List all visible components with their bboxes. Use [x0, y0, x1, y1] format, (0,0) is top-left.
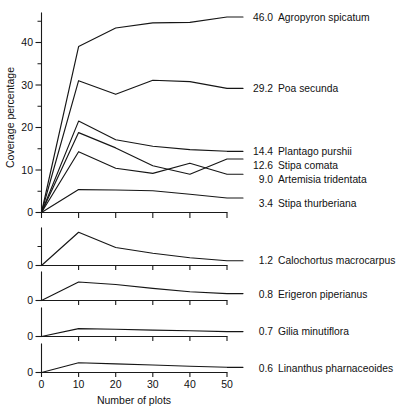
xtick-0: 0: [39, 378, 45, 390]
legend-value-gilia-minutiflora: 0.7: [247, 326, 273, 337]
legend-name-gilia-minutiflora: Gilia minutiflora: [278, 326, 349, 337]
calochortus-ytick-label-0: 0: [27, 259, 33, 271]
xtick-30: 30: [147, 378, 159, 390]
legend-name-poa-secunda: Poa secunda: [278, 83, 338, 94]
series-plantago-purshii: [42, 121, 244, 212]
main-panel: 0 10 20 30 40 Coverage percentage: [4, 13, 243, 218]
legend-item-stipa-comata: 12.6Stipa comata: [247, 160, 338, 171]
main-x-ticks: [42, 213, 228, 219]
species-coverage-figure: 0 10 20 30 40 Coverage percentage: [0, 0, 398, 410]
calochortus-x-ticks: [79, 266, 227, 271]
legend-value-linanthus-pharnaceoides: 0.6: [247, 363, 273, 374]
xtick-10: 10: [73, 378, 85, 390]
series-gilia-minutiflora: [42, 329, 244, 337]
legend-name-plantago-purshii: Plantago purshii: [278, 146, 352, 157]
x-axis-title: Number of plots: [97, 394, 171, 406]
legend-item-plantago-purshii: 14.4Plantago purshii: [247, 146, 352, 157]
linanthus-ytick-label-0: 0: [27, 366, 33, 378]
series-agropyron-spicatum: [42, 17, 244, 213]
linanthus-panel: 0 0 10 20 30 40 50 Number of plots: [27, 344, 243, 406]
legend-item-poa-secunda: 29.2Poa secunda: [247, 83, 338, 94]
xtick-20: 20: [110, 378, 122, 390]
legend-value-poa-secunda: 29.2: [247, 83, 273, 94]
legend-name-artemisia-tridentata: Artemisia tridentata: [278, 174, 367, 185]
legend-item-erigeron-piperianus: 0.8Erigeron piperianus: [247, 289, 367, 300]
legend-name-calochortus-macrocarpus: Calochortus macrocarpus: [278, 255, 395, 266]
legend-value-stipa-comata: 12.6: [247, 160, 273, 171]
main-ytick-30: 30: [21, 79, 33, 91]
legend-name-agropyron-spicatum: Agropyron spicatum: [278, 12, 370, 23]
main-y-minor-ticks: [38, 21, 42, 191]
erigeron-panel: 0: [27, 272, 243, 306]
legend-item-gilia-minutiflora: 0.7Gilia minutiflora: [247, 326, 349, 337]
main-y-major-ticks: [36, 43, 42, 213]
legend-value-agropyron-spicatum: 46.0: [247, 12, 273, 23]
legend-value-artemisia-tridentata: 9.0: [247, 174, 273, 185]
legend-item-calochortus-macrocarpus: 1.2Calochortus macrocarpus: [247, 255, 395, 266]
x-tick-labels: 0 10 20 30 40 50: [39, 378, 233, 390]
y-axis-title: Coverage percentage: [4, 67, 16, 168]
legend-name-stipa-thurberiana: Stipa thurberiana: [278, 198, 356, 209]
legend-value-stipa-thurberiana: 3.4: [247, 198, 273, 209]
main-ytick-0: 0: [27, 206, 33, 218]
legend-name-stipa-comata: Stipa comata: [278, 160, 338, 171]
xtick-50: 50: [221, 378, 233, 390]
series-erigeron-piperianus: [42, 282, 244, 301]
series-linanthus-pharnaceoides: [42, 363, 244, 373]
legend-name-erigeron-piperianus: Erigeron piperianus: [278, 289, 367, 300]
series-stipa-thurberiana: [42, 190, 244, 213]
gilia-ytick-label-0: 0: [27, 330, 33, 342]
legend-item-linanthus-pharnaceoides: 0.6Linanthus pharnaceoides: [247, 363, 393, 374]
legend-item-agropyron-spicatum: 46.0Agropyron spicatum: [247, 12, 370, 23]
xtick-40: 40: [184, 378, 196, 390]
legend-item-artemisia-tridentata: 9.0Artemisia tridentata: [247, 174, 367, 185]
gilia-panel: 0: [27, 308, 243, 342]
gilia-x-ticks: [79, 337, 227, 342]
legend-name-linanthus-pharnaceoides: Linanthus pharnaceoides: [278, 363, 393, 374]
series-calochortus-macrocarpus: [42, 232, 244, 265]
main-ytick-10: 10: [21, 164, 33, 176]
legend-value-plantago-purshii: 14.4: [247, 146, 273, 157]
legend-item-stipa-thurberiana: 3.4Stipa thurberiana: [247, 198, 356, 209]
linanthus-x-ticks: [42, 373, 228, 378]
legend-value-calochortus-macrocarpus: 1.2: [247, 255, 273, 266]
calochortus-panel: 0: [27, 228, 243, 271]
main-ytick-20: 20: [21, 121, 33, 133]
main-ytick-40: 40: [21, 36, 33, 48]
legend-value-erigeron-piperianus: 0.8: [247, 289, 273, 300]
erigeron-ytick-label-0: 0: [27, 294, 33, 306]
erigeron-x-ticks: [79, 301, 227, 306]
